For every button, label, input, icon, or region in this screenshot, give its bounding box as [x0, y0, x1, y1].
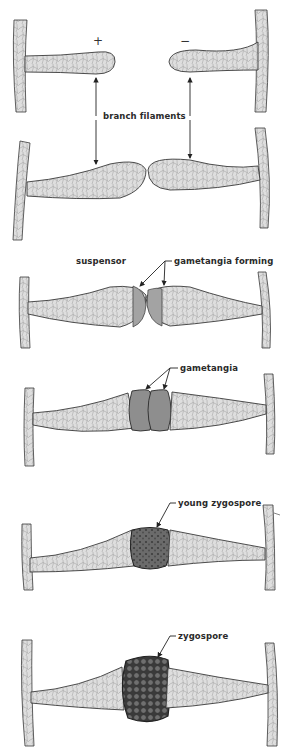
stage-separate — [13, 10, 268, 116]
label-suspensor: suspensor — [76, 256, 126, 266]
label-gametangia-forming: gametangia forming — [174, 256, 273, 266]
gametangium-right — [148, 390, 171, 431]
branch-plus — [25, 52, 115, 74]
label-young-zygospore: young zygospore — [178, 498, 261, 508]
progametangium-left — [27, 162, 146, 199]
zygospore — [122, 656, 170, 721]
label-gametangia: gametangia — [180, 363, 238, 373]
plus-sign: + — [93, 34, 103, 48]
stage-zygospore — [21, 636, 277, 746]
stage-contact — [13, 120, 269, 240]
cut-off-caption — [8, 745, 293, 751]
progametangium-right — [148, 159, 260, 190]
stage-gametangia — [24, 368, 275, 466]
label-branch-filaments: branch filaments — [101, 111, 188, 121]
stage-young-zygospore — [22, 503, 280, 590]
stage-gametangia-forming — [19, 261, 270, 348]
minus-sign: − — [180, 34, 190, 48]
label-zygospore: zygospore — [178, 631, 228, 641]
young-zygospore — [130, 528, 170, 570]
